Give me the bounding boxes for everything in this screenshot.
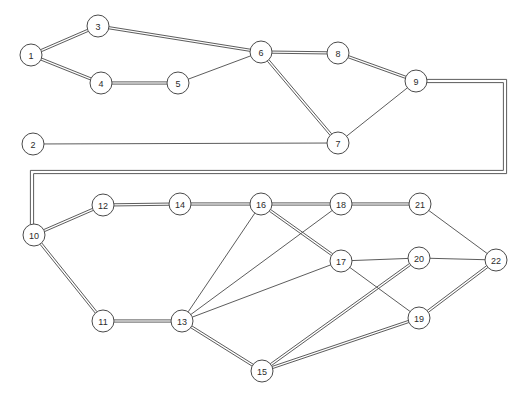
graph-node-4[interactable]: 4 bbox=[90, 72, 112, 94]
graph-edge bbox=[272, 320, 409, 368]
graph-node-12[interactable]: 12 bbox=[92, 194, 114, 216]
graph-edge bbox=[427, 266, 488, 313]
node-label: 4 bbox=[98, 79, 103, 89]
node-label: 13 bbox=[177, 317, 187, 327]
graph-node-15[interactable]: 15 bbox=[251, 360, 273, 382]
graph-node-7[interactable]: 7 bbox=[327, 132, 349, 154]
node-label: 7 bbox=[335, 139, 340, 149]
node-label: 18 bbox=[336, 200, 346, 210]
node-label: 16 bbox=[256, 200, 266, 210]
graph-node-20[interactable]: 20 bbox=[408, 247, 430, 269]
graph-edge bbox=[267, 60, 331, 136]
graph-node-2[interactable]: 2 bbox=[22, 133, 44, 155]
graph-edge bbox=[350, 267, 410, 311]
node-label: 8 bbox=[335, 49, 340, 59]
graph-node-13[interactable]: 13 bbox=[171, 310, 193, 332]
node-label: 15 bbox=[257, 367, 267, 377]
graph-node-22[interactable]: 22 bbox=[485, 249, 507, 271]
graph-node-9[interactable]: 9 bbox=[405, 70, 427, 92]
graph-node-14[interactable]: 14 bbox=[169, 193, 191, 215]
node-label: 6 bbox=[258, 48, 263, 58]
graph-edge bbox=[430, 258, 485, 259]
graph-edge bbox=[348, 56, 406, 79]
node-label: 10 bbox=[29, 231, 39, 241]
network-graph-diagram: 12345678910111213141516171819202122 bbox=[0, 0, 522, 397]
graph-edge bbox=[191, 326, 254, 366]
node-layer: 12345678910111213141516171819202122 bbox=[20, 15, 507, 382]
graph-edge bbox=[109, 27, 251, 52]
graph-edge bbox=[269, 209, 332, 255]
graph-node-19[interactable]: 19 bbox=[408, 307, 430, 329]
node-label: 17 bbox=[336, 257, 346, 267]
graph-edge bbox=[41, 29, 89, 51]
node-label: 1 bbox=[28, 51, 33, 61]
graph-edge bbox=[112, 82, 167, 84]
graph-edge bbox=[352, 203, 409, 205]
graph-edge bbox=[44, 208, 94, 231]
graph-edge bbox=[114, 320, 171, 322]
graph-edge bbox=[191, 203, 250, 205]
graph-edge bbox=[40, 243, 97, 313]
node-label: 12 bbox=[98, 201, 108, 211]
graph-canvas: 12345678910111213141516171819202122 bbox=[0, 0, 522, 397]
graph-node-3[interactable]: 3 bbox=[87, 15, 109, 37]
node-label: 14 bbox=[175, 200, 185, 210]
graph-node-1[interactable]: 1 bbox=[20, 44, 42, 66]
graph-edge bbox=[272, 51, 327, 54]
graph-edge bbox=[352, 258, 408, 260]
node-label: 9 bbox=[413, 77, 418, 87]
graph-edge bbox=[114, 203, 169, 206]
node-label: 20 bbox=[414, 254, 424, 264]
graph-node-11[interactable]: 11 bbox=[92, 310, 114, 332]
node-label: 3 bbox=[95, 22, 100, 32]
graph-node-17[interactable]: 17 bbox=[330, 250, 352, 272]
graph-edge bbox=[272, 203, 330, 205]
graph-node-10[interactable]: 10 bbox=[23, 224, 45, 246]
graph-node-5[interactable]: 5 bbox=[167, 72, 189, 94]
graph-edge bbox=[188, 56, 250, 79]
graph-node-16[interactable]: 16 bbox=[250, 193, 272, 215]
graph-node-6[interactable]: 6 bbox=[250, 41, 272, 63]
node-label: 5 bbox=[175, 79, 180, 89]
graph-edge bbox=[192, 265, 330, 317]
graph-edge bbox=[347, 88, 408, 136]
node-label: 2 bbox=[30, 140, 35, 150]
graph-node-21[interactable]: 21 bbox=[409, 193, 431, 215]
node-label: 11 bbox=[98, 317, 107, 327]
graph-edge-routed bbox=[44, 143, 327, 144]
graph-edge bbox=[41, 58, 91, 80]
graph-edge bbox=[429, 211, 487, 254]
graph-node-18[interactable]: 18 bbox=[330, 193, 352, 215]
node-label: 22 bbox=[491, 256, 501, 266]
node-label: 19 bbox=[414, 314, 424, 324]
graph-edge bbox=[270, 264, 410, 366]
graph-node-8[interactable]: 8 bbox=[327, 42, 349, 64]
graph-edge bbox=[191, 211, 332, 315]
node-label: 21 bbox=[415, 200, 425, 210]
